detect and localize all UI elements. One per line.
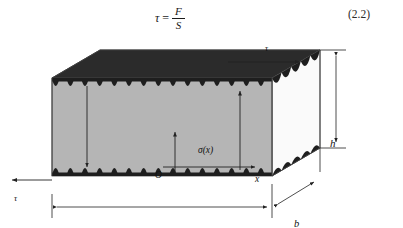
b-arrow — [278, 182, 314, 204]
block-front-face — [52, 78, 272, 176]
label-tau-top: τ — [265, 44, 268, 53]
fraction-denominator: S — [173, 19, 185, 31]
fraction: F S — [172, 6, 185, 31]
diagram-svg — [0, 34, 403, 228]
tau-symbol: τ — [155, 11, 159, 26]
equation-row: τ = F S (2.2) — [0, 4, 403, 34]
dimension-length — [52, 184, 272, 218]
equals-sign: = — [161, 11, 170, 26]
equation-number: (2.2) — [348, 8, 370, 20]
shear-stress-equation: τ = F S — [155, 6, 185, 31]
label-stress-function: σ(x) — [198, 146, 213, 156]
label-x-axis: x — [255, 175, 259, 185]
label-height: h — [330, 138, 336, 149]
label-breadth: b — [294, 219, 299, 228]
label-origin: O — [155, 171, 162, 181]
fraction-numerator: F — [172, 6, 185, 18]
dimension-height — [320, 50, 346, 148]
label-tau-left: τ — [14, 194, 17, 203]
figure-page: τ = F S (2.2) — [0, 0, 403, 228]
block-shear-diagram: τ τ h b l O x σ(x) — [0, 34, 403, 228]
